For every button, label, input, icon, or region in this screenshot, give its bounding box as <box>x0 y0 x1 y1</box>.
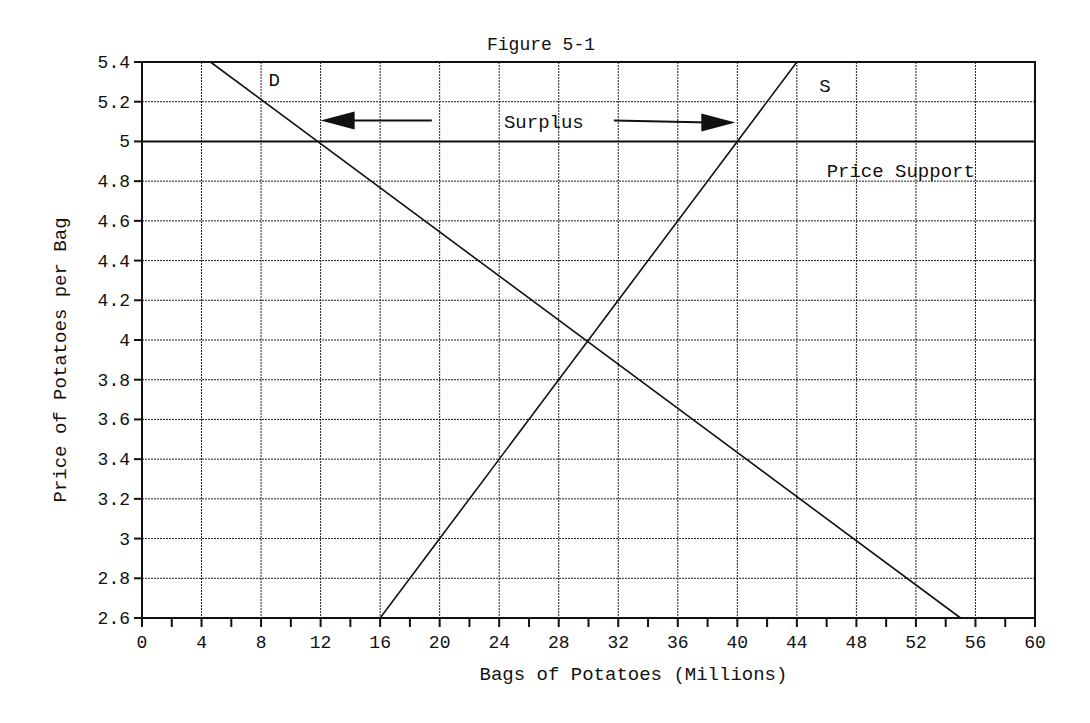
x-tick-label: 44 <box>786 633 808 653</box>
y-tick-label: 4.4 <box>98 252 130 272</box>
x-tick-label: 60 <box>1024 633 1046 653</box>
arrow-right-icon <box>701 114 735 132</box>
annotations: DSSurplusPrice Support <box>269 70 975 183</box>
x-tick-label: 12 <box>310 633 332 653</box>
x-tick-label: 4 <box>196 633 207 653</box>
y-tick-label: 4.8 <box>98 172 130 192</box>
x-tick-label: 56 <box>965 633 987 653</box>
x-tick-label: 28 <box>548 633 570 653</box>
x-tick-label: 32 <box>607 633 629 653</box>
x-tick-label: 0 <box>137 633 148 653</box>
y-tick-label: 2.6 <box>98 609 130 629</box>
x-tick-label: 8 <box>256 633 267 653</box>
y-tick-label: 5.2 <box>98 93 130 113</box>
annotation-price-support: Price Support <box>827 161 975 183</box>
y-tick-label: 3 <box>119 530 130 550</box>
y-tick-label: 3.4 <box>98 450 130 470</box>
y-tick-label: 5 <box>119 132 130 152</box>
y-axis-ticks: 2.62.833.23.43.63.844.24.44.64.855.25.4 <box>98 53 142 629</box>
x-tick-label: 24 <box>488 633 510 653</box>
y-axis-title: Price of Potatoes per Bag <box>50 217 72 502</box>
y-tick-label: 3.8 <box>98 371 130 391</box>
y-tick-label: 4 <box>119 331 130 351</box>
x-tick-label: 52 <box>905 633 927 653</box>
annotation-s: S <box>819 76 830 98</box>
x-tick-label: 40 <box>727 633 749 653</box>
y-tick-label: 4.2 <box>98 291 130 311</box>
y-tick-label: 3.2 <box>98 490 130 510</box>
x-tick-label: 16 <box>369 633 391 653</box>
x-axis-ticks: 04812162024283236404448525660 <box>137 618 1046 653</box>
price-support-chart: Figure 5-1 2.62.833.23.43.63.844.24.44.6… <box>0 0 1090 723</box>
chart-title: Figure 5-1 <box>487 35 595 55</box>
y-tick-label: 4.6 <box>98 212 130 232</box>
x-tick-label: 48 <box>846 633 868 653</box>
x-tick-label: 36 <box>667 633 689 653</box>
annotation-surplus: Surplus <box>504 112 584 134</box>
y-tick-label: 3.6 <box>98 410 130 430</box>
x-tick-label: 20 <box>429 633 451 653</box>
annotation-d: D <box>269 70 280 92</box>
y-tick-label: 5.4 <box>98 53 130 73</box>
x-axis-title: Bags of Potatoes (Millions) <box>480 664 788 686</box>
y-tick-label: 2.8 <box>98 569 130 589</box>
arrow-left-icon <box>321 112 355 130</box>
